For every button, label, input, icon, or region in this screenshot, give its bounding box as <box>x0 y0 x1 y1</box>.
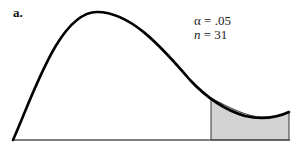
n-annotation: n = 31 <box>194 28 231 42</box>
panel-label: a. <box>13 5 23 21</box>
alpha-annotation: α = .05 <box>194 14 231 28</box>
rejection-region <box>211 98 289 140</box>
n-value: 31 <box>214 27 227 42</box>
n-symbol: n <box>194 27 201 42</box>
alpha-symbol: α <box>194 13 201 28</box>
chart-figure: a. α = .05 n = 31 <box>0 0 291 145</box>
alpha-value: .05 <box>215 13 231 28</box>
density-plot <box>0 0 291 145</box>
parameters-legend: α = .05 n = 31 <box>194 14 231 42</box>
